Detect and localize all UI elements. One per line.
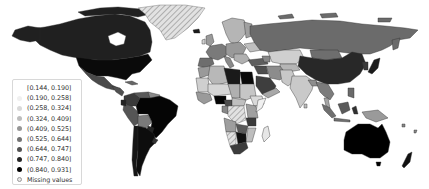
region-mozambique (246, 128, 256, 142)
region-kamchatka (392, 38, 400, 50)
legend-item: (0.644, 0.747] (17, 144, 79, 154)
legend-marker-icon (17, 147, 22, 152)
region-ireland (202, 39, 205, 44)
region-borneo (338, 102, 350, 114)
legend-marker-icon (17, 157, 22, 162)
legend-label: (0.840, 0.931] (27, 166, 71, 174)
region-chad (228, 84, 240, 98)
legend-marker-icon (17, 126, 22, 131)
region-caribbean (125, 81, 138, 85)
legend-item: (0.190, 0.258] (17, 93, 79, 103)
region-tanzania (246, 118, 256, 126)
region-egypt (240, 72, 254, 84)
legend-label: (0.644, 0.747] (27, 145, 71, 153)
legend-item: (0.324, 0.409] (17, 114, 79, 124)
region-namibia (226, 132, 236, 146)
legend-item: (0.525, 0.644] (17, 134, 79, 144)
region-kazakhstan (268, 50, 304, 64)
region-argentina (136, 126, 156, 176)
region-australia (344, 124, 390, 158)
legend-label: (0.409, 0.525] (27, 125, 71, 133)
legend-item: [0.144, 0.190] (17, 83, 79, 93)
region-new-zealand (402, 152, 412, 168)
region-central-america (112, 86, 124, 96)
legend-marker-icon (17, 106, 22, 111)
region-papua (362, 110, 388, 122)
region-tasmania (376, 162, 381, 166)
legend-marker-icon (17, 96, 22, 101)
region-southeast-asia (316, 82, 334, 100)
region-gabon-congo (222, 106, 228, 114)
region-japan (368, 58, 380, 74)
region-canada (30, 14, 152, 60)
region-uk (206, 34, 214, 46)
region-sri-lanka (304, 104, 307, 108)
region-sulawesi (352, 106, 358, 114)
region-alaska (12, 26, 40, 42)
region-ecuador (121, 100, 126, 106)
legend-marker-icon (17, 137, 22, 142)
legend-marker-icon (17, 167, 22, 172)
region-pacific-islands (402, 124, 417, 133)
region-balkans (234, 54, 250, 64)
legend-item: (0.409, 0.525] (17, 124, 79, 134)
legend-label: (0.747, 0.840] (27, 155, 71, 163)
region-west-africa (196, 92, 212, 104)
region-philippines (348, 88, 354, 98)
legend-missing-marker-icon (17, 177, 22, 182)
region-madagascar (262, 126, 270, 142)
legend-label: Missing values (27, 176, 72, 184)
legend-item: (0.258, 0.324] (17, 103, 79, 113)
legend-label: (0.258, 0.324] (27, 104, 71, 112)
map-legend: [0.144, 0.190] (0.190, 0.258] (0.258, 0.… (12, 79, 82, 185)
legend-label: (0.190, 0.258] (27, 94, 71, 102)
legend-marker-icon (17, 86, 22, 91)
legend-marker-icon (17, 116, 22, 121)
legend-label: [0.144, 0.190] (27, 84, 71, 92)
region-iraq-syria (254, 66, 268, 74)
legend-label: (0.525, 0.644] (27, 135, 71, 143)
region-java (334, 118, 350, 122)
legend-item: (0.747, 0.840] (17, 154, 79, 164)
legend-item: Missing values (17, 175, 79, 185)
legend-label: (0.324, 0.409] (27, 115, 71, 123)
region-iceland (193, 29, 200, 33)
legend-item: (0.840, 0.931] (17, 165, 79, 175)
